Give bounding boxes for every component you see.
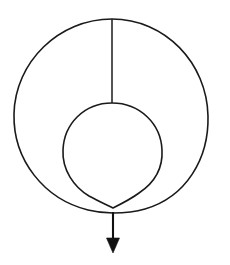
- figure-canvas: [0, 0, 230, 265]
- outer-circle-path: [14, 19, 208, 213]
- loop-diagram-svg: [0, 0, 230, 265]
- inner-loop-path: [63, 103, 162, 208]
- arrow-head-icon: [107, 238, 120, 253]
